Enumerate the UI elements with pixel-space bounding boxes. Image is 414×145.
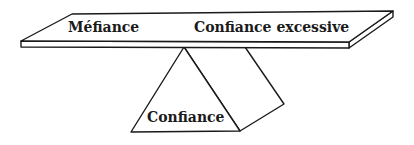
label-mefiance: Méfiance xyxy=(68,20,139,34)
label-confiance-excessive: Confiance excessive xyxy=(194,20,349,34)
balance-diagram: Méfiance Confiance excessive Confiance xyxy=(0,0,414,145)
label-confiance: Confiance xyxy=(147,110,225,124)
